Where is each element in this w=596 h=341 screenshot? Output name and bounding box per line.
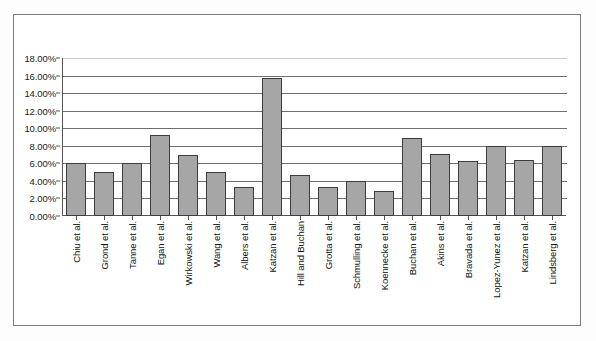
x-axis-tick-label: Egan et al. <box>155 221 166 265</box>
x-label-slot: Albers et al. <box>230 219 258 319</box>
bar <box>234 187 254 216</box>
bar-slot <box>538 58 566 216</box>
y-axis-tick-label: 16.00% <box>24 70 56 81</box>
bar <box>458 161 478 216</box>
y-axis-tick-mark <box>56 93 60 94</box>
bar-slot <box>286 58 314 216</box>
y-axis-tick-mark <box>56 110 60 111</box>
y-axis-tick-label: 6.00% <box>30 158 56 169</box>
x-label-slot: Wang et al. <box>202 219 230 319</box>
x-label-slot: Egan et al. <box>146 219 174 319</box>
y-axis-tick-label: 12.00% <box>24 105 56 116</box>
x-label-slot: Schmulling et al. <box>342 219 370 319</box>
bar-slot <box>258 58 286 216</box>
bar-slot <box>118 58 146 216</box>
bar-slot <box>482 58 510 216</box>
bar-slot <box>426 58 454 216</box>
y-axis-tick-label: 4.00% <box>30 175 56 186</box>
y-axis-tick-mark <box>56 145 60 146</box>
x-axis-tick-label: Bravada et al. <box>463 221 474 278</box>
x-label-slot: Tanne et al. <box>118 219 146 319</box>
x-axis-tick-label: Schmulling et al. <box>351 221 362 289</box>
x-axis-tick-label: Wang et al. <box>211 221 222 268</box>
bar-slot <box>314 58 342 216</box>
x-axis-tick-label: Koennecke et al. <box>379 221 390 290</box>
y-axis-tick-mark <box>56 58 60 59</box>
bar <box>150 135 170 216</box>
y-axis-tick-mark <box>56 180 60 181</box>
bar <box>94 172 114 216</box>
x-label-slot: Katzan et al. <box>510 219 538 319</box>
x-axis-labels: Chiu et al.Grond et al.Tanne et al.Egan … <box>62 219 566 319</box>
x-label-slot: Akins et al. <box>426 219 454 319</box>
x-label-slot: Grond et al. <box>90 219 118 319</box>
bar-slot <box>370 58 398 216</box>
x-label-slot: Bravada et al. <box>454 219 482 319</box>
y-axis-tick-mark <box>56 128 60 129</box>
x-axis-tick-label: Katzan et al. <box>267 221 278 273</box>
bar <box>66 163 86 216</box>
bar <box>262 78 282 216</box>
bar <box>178 155 198 216</box>
y-axis-tick-label: 2.00% <box>30 193 56 204</box>
x-axis-tick-label: Katzan et al. <box>519 221 530 273</box>
bar <box>514 160 534 216</box>
y-axis-tick-label: 0.00% <box>30 211 56 222</box>
y-axis-tick-label: 14.00% <box>24 88 56 99</box>
bar <box>542 146 562 216</box>
x-axis-tick-label: Hill and Buchan <box>295 221 306 286</box>
y-axis-tick-label: 8.00% <box>30 140 56 151</box>
x-label-slot: Katzan et al. <box>258 219 286 319</box>
y-axis-tick-mark <box>56 75 60 76</box>
bar <box>346 181 366 216</box>
bar <box>402 138 422 216</box>
x-axis-tick-label: Grond et al. <box>99 221 110 269</box>
x-axis-tick-label: Lopez-Yunez et al. <box>491 221 502 298</box>
y-axis-tick-label: 18.00% <box>24 53 56 64</box>
y-axis-tick-mark <box>56 216 60 217</box>
x-axis-tick-label: Tanne et al. <box>127 221 138 269</box>
y-axis: 0.00%2.00%4.00%6.00%8.00%10.00%12.00%14.… <box>0 58 56 216</box>
x-axis-tick-label: Akins et al. <box>435 221 446 266</box>
x-label-slot: Hill and Buchan <box>286 219 314 319</box>
plot-area <box>62 58 566 216</box>
chart-figure: 0.00%2.00%4.00%6.00%8.00%10.00%12.00%14.… <box>0 0 596 341</box>
bar-series <box>62 58 566 216</box>
bar-slot <box>342 58 370 216</box>
x-axis-tick-label: Wirkowski et al. <box>183 221 194 285</box>
bar-slot <box>90 58 118 216</box>
y-axis-tick-mark <box>56 198 60 199</box>
y-axis-tick-mark <box>56 163 60 164</box>
bar <box>374 191 394 216</box>
bar-slot <box>510 58 538 216</box>
x-label-slot: Chiu et al. <box>62 219 90 319</box>
x-label-slot: Buchan et al. <box>398 219 426 319</box>
x-label-slot: Wirkowski et al. <box>174 219 202 319</box>
x-axis-tick-label: Buchan et al. <box>407 221 418 275</box>
bar <box>486 146 506 216</box>
bar <box>430 154 450 216</box>
x-label-slot: Koennecke et al. <box>370 219 398 319</box>
x-axis-tick-label: Lindsberg et al. <box>547 221 558 284</box>
bar <box>122 163 142 216</box>
y-axis-tick-label: 10.00% <box>24 123 56 134</box>
x-axis-tick-label: Albers et al. <box>239 221 250 270</box>
bar-slot <box>174 58 202 216</box>
x-label-slot: Lindsberg et al. <box>538 219 566 319</box>
bar-slot <box>62 58 90 216</box>
bar-slot <box>230 58 258 216</box>
bar-slot <box>398 58 426 216</box>
bar <box>206 172 226 216</box>
bar <box>318 187 338 216</box>
x-axis-tick-label: Chiu et al. <box>71 221 82 263</box>
x-axis-tick-label: Grotta et al. <box>323 221 334 269</box>
bar-slot <box>454 58 482 216</box>
bar-slot <box>202 58 230 216</box>
bar-slot <box>146 58 174 216</box>
x-label-slot: Grotta et al. <box>314 219 342 319</box>
bar <box>290 175 310 216</box>
x-label-slot: Lopez-Yunez et al. <box>482 219 510 319</box>
